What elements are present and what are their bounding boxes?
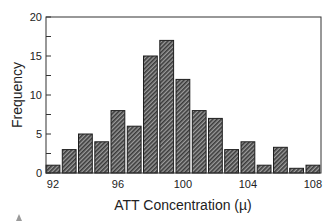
histogram-bar <box>46 165 60 173</box>
y-axis-label: Frequency <box>9 62 25 128</box>
histogram-bar <box>290 168 304 173</box>
histogram-bar <box>209 118 223 173</box>
x-tick-label: 104 <box>239 178 257 190</box>
x-tick-label: 92 <box>47 178 59 190</box>
y-tick-label: 20 <box>30 11 42 23</box>
histogram-chart: 05101520 9296100104108 Frequency ATT Con… <box>0 0 335 223</box>
histogram-bar <box>144 56 158 173</box>
histogram-bar <box>225 150 239 173</box>
y-tick-label: 10 <box>30 89 42 101</box>
histogram-bar <box>79 134 93 173</box>
histogram-bar <box>127 126 141 173</box>
histogram-bar <box>111 111 125 173</box>
histogram-bar <box>95 142 109 173</box>
histogram-bars <box>46 40 320 173</box>
histogram-bar <box>160 40 174 173</box>
histogram-bar <box>257 165 271 173</box>
histogram-bar <box>192 111 206 173</box>
x-tick-label: 96 <box>112 178 124 190</box>
histogram-bar <box>241 142 255 173</box>
histogram-bar <box>306 165 320 173</box>
x-axis-label: ATT Concentration (µ) <box>114 197 251 213</box>
corner-mark <box>16 214 22 221</box>
histogram-bar <box>62 150 76 173</box>
x-tick-label: 100 <box>174 178 192 190</box>
histogram-bar <box>176 79 190 173</box>
histogram-bar <box>274 147 288 173</box>
y-tick-label: 5 <box>36 128 42 140</box>
x-tick-label: 108 <box>304 178 322 190</box>
x-axis-ticks: 9296100104108 <box>47 178 322 190</box>
y-axis-ticks: 05101520 <box>30 11 51 179</box>
y-tick-label: 15 <box>30 50 42 62</box>
y-tick-label: 0 <box>36 167 42 179</box>
